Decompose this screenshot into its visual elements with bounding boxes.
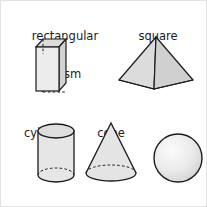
shape-rectangular-prism: [35, 34, 91, 98]
cone-body: [86, 123, 136, 181]
sphere-circle: [154, 134, 202, 182]
cylinder-top-ellipse: [38, 124, 74, 138]
shape-sphere: [152, 132, 206, 186]
shape-square-pyramid: [114, 35, 198, 97]
shape-cylinder: [32, 121, 80, 187]
geometric-solids-diagram: rectangular prism square pyramid: [0, 0, 207, 207]
prism-right-face: [59, 39, 66, 91]
prism-front-face: [36, 47, 59, 91]
shape-cone: [79, 120, 143, 188]
